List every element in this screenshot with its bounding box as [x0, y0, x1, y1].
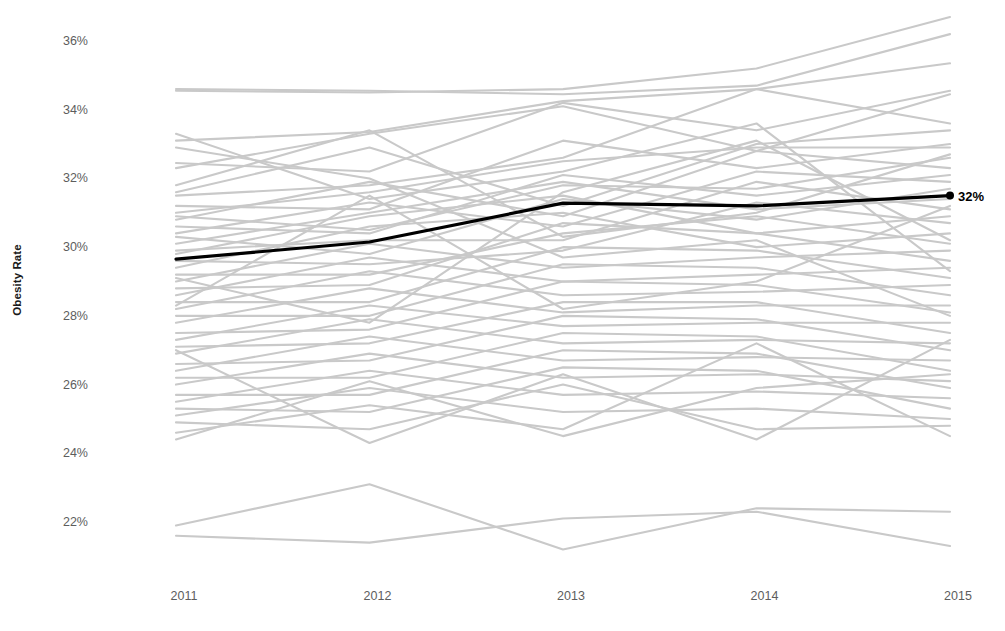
highlight-end-value-label: 32% [958, 188, 984, 203]
plot-area [0, 0, 1005, 631]
highlight-end-marker-dot [946, 192, 954, 200]
background-series-line [176, 343, 950, 436]
background-series-line [176, 306, 950, 340]
obesity-rate-line-chart: Obesity Rate 36%34%32%30%28%26%24%22% 20… [0, 0, 1005, 631]
background-series-line [176, 333, 950, 378]
background-series-line [176, 17, 950, 93]
background-series-group [176, 17, 950, 550]
background-series-line [176, 271, 950, 309]
background-series-line [176, 34, 950, 94]
background-series-line [176, 319, 950, 353]
background-series-line [176, 512, 950, 546]
background-series-line [176, 350, 950, 395]
